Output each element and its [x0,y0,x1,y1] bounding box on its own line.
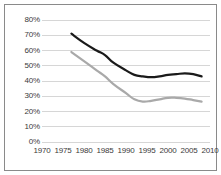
x-tick-label: 1985 [97,147,114,155]
x-tick-label: 1980 [76,147,93,155]
x-axis-tick-labels: 197019751980198519901995200020052010 [0,147,221,161]
plot-area: 0%10%20%30%40%50%60%70%80% 1970197519801… [0,0,221,175]
line-series-gray [71,52,201,102]
x-tick-label: 1995 [139,147,156,155]
y-tick-label: 0% [29,138,40,146]
y-tick-label: 40% [25,77,40,85]
y-tick-label: 60% [25,47,40,55]
x-tick-label: 1975 [55,147,72,155]
y-tick-label: 20% [25,108,40,116]
y-tick-label: 10% [25,123,40,131]
line-series-dark [71,34,201,77]
y-tick-label: 50% [25,62,40,70]
x-tick-label: 2005 [181,147,198,155]
y-tick-label: 30% [25,92,40,100]
chart-container: 0%10%20%30%40%50%60%70%80% 1970197519801… [0,0,221,175]
y-axis-tick-labels: 0%10%20%30%40%50%60%70%80% [12,16,40,142]
y-tick-label: 70% [25,31,40,39]
gridlines-group [42,20,210,142]
x-tick-label: 1970 [34,147,51,155]
series-group [71,34,201,102]
y-tick-label: 80% [25,16,40,24]
x-tick-label: 2010 [202,147,219,155]
x-tick-label: 1990 [118,147,135,155]
x-tick-label: 2000 [160,147,177,155]
